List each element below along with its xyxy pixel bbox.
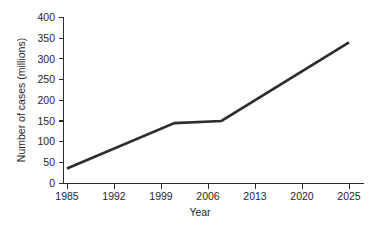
y-tick-label-100: 100 bbox=[37, 135, 55, 147]
y-tick-label-50: 50 bbox=[43, 156, 55, 168]
x-tick-label-1985: 1985 bbox=[55, 190, 79, 202]
x-tick-label-1992: 1992 bbox=[102, 190, 126, 202]
x-tick-label-2020: 2020 bbox=[290, 190, 314, 202]
y-tick-label-250: 250 bbox=[37, 73, 55, 85]
y-tick-label-0: 0 bbox=[49, 177, 55, 189]
y-tick-label-350: 350 bbox=[37, 32, 55, 44]
y-tick-label-400: 400 bbox=[37, 11, 55, 23]
y-tick-label-150: 150 bbox=[37, 115, 55, 127]
y-axis-title: Number of cases (millions) bbox=[15, 38, 27, 162]
line-chart-figure: 400 350 300 250 200 150 100 50 0 1985 19… bbox=[0, 0, 380, 227]
y-tick-label-300: 300 bbox=[37, 53, 55, 65]
y-tick-label-200: 200 bbox=[37, 94, 55, 106]
x-tick-label-2025: 2025 bbox=[337, 190, 361, 202]
x-tick-label-2013: 2013 bbox=[243, 190, 267, 202]
chart-canvas: 400 350 300 250 200 150 100 50 0 1985 19… bbox=[0, 0, 380, 227]
x-tick-label-2006: 2006 bbox=[196, 190, 220, 202]
x-axis-title: Year bbox=[189, 206, 211, 218]
x-tick-label-1999: 1999 bbox=[149, 190, 173, 202]
